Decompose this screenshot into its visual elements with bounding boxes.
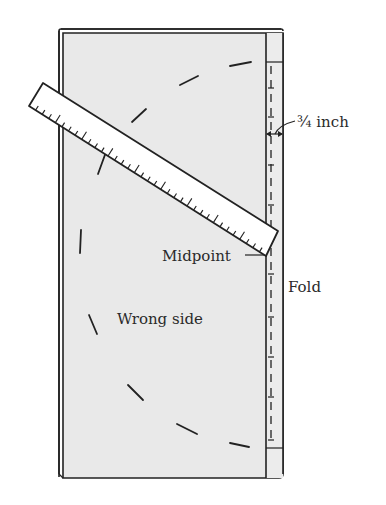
fold-label: Fold [288,278,321,296]
midpoint-label: Midpoint [162,247,231,265]
measurement-label: ¾ inch [297,113,349,131]
fold-allowance-strip [266,33,283,478]
wrong-side-label: Wrong side [117,310,203,328]
sewing-diagram: ¾ inch Midpoint Fold Wrong side [0,0,386,505]
